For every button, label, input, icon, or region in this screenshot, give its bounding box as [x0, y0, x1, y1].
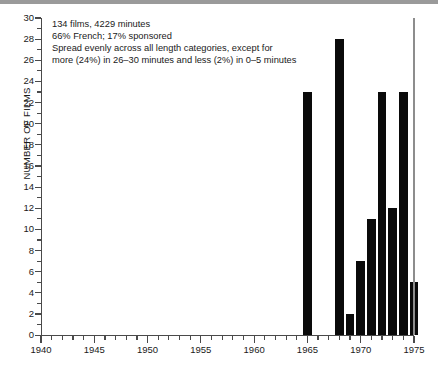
x-tick-minor — [275, 336, 276, 340]
annotation-line: more (24%) in 26–30 minutes and less (2%… — [52, 54, 296, 66]
y-tick-major — [35, 81, 41, 82]
x-tick-major — [360, 336, 361, 343]
annotation-line: 66% French; 17% sponsored — [52, 30, 296, 42]
y-tick-major — [35, 229, 41, 230]
x-tick-minor — [222, 336, 223, 340]
y-tick-major — [35, 144, 41, 145]
y-tick-major — [35, 123, 41, 124]
bar — [399, 92, 408, 335]
y-axis-title: NUMBER OF FILMS — [21, 64, 32, 204]
y-tick-minor — [37, 324, 41, 325]
y-tick-label: 12 — [0, 203, 34, 213]
x-tick-minor — [115, 336, 116, 340]
y-tick-major — [35, 250, 41, 251]
x-tick-minor — [190, 336, 191, 340]
y-tick-minor — [37, 28, 41, 29]
x-tick-minor — [371, 336, 372, 340]
y-tick-major — [35, 271, 41, 272]
annotation-line: 134 films, 4229 minutes — [52, 18, 296, 30]
x-tick-minor — [317, 336, 318, 340]
y-tick-major — [35, 292, 41, 293]
x-tick-minor — [158, 336, 159, 340]
y-tick-minor — [37, 134, 41, 135]
x-tick-label: 1975 — [392, 345, 436, 355]
y-tick-major — [35, 187, 41, 188]
bar — [378, 92, 387, 335]
x-tick-minor — [328, 336, 329, 340]
x-tick-minor — [381, 336, 382, 340]
y-tick-label: 28 — [0, 34, 34, 44]
y-tick-label: 0 — [0, 330, 34, 340]
x-tick-minor — [403, 336, 404, 340]
y-tick-minor — [37, 49, 41, 50]
x-tick-label: 1950 — [126, 345, 170, 355]
y-tick-label: 6 — [0, 267, 34, 277]
x-tick-minor — [349, 336, 350, 340]
x-tick-minor — [83, 336, 84, 340]
x-tick-minor — [51, 336, 52, 340]
x-tick-major — [307, 336, 308, 343]
x-tick-minor — [286, 336, 287, 340]
x-tick-label: 1940 — [19, 345, 63, 355]
x-tick-minor — [243, 336, 244, 340]
x-tick-major — [254, 336, 255, 343]
y-tick-label: 2 — [0, 309, 34, 319]
y-tick-major — [35, 17, 41, 18]
x-tick-label: 1945 — [72, 345, 116, 355]
x-tick-major — [147, 336, 148, 343]
x-tick-minor — [211, 336, 212, 340]
y-tick-label: 10 — [0, 224, 34, 234]
y-axis-line — [41, 18, 42, 335]
y-tick-minor — [37, 91, 41, 92]
bar — [303, 92, 312, 335]
annotation-line: Spread evenly across all length categori… — [52, 42, 296, 54]
y-tick-minor — [37, 303, 41, 304]
x-tick-minor — [264, 336, 265, 340]
y-tick-major — [35, 313, 41, 314]
x-tick-minor — [126, 336, 127, 340]
y-tick-minor — [37, 155, 41, 156]
y-tick-label: 4 — [0, 288, 34, 298]
x-tick-minor — [392, 336, 393, 340]
x-tick-minor — [62, 336, 63, 340]
y-tick-minor — [37, 197, 41, 198]
y-tick-minor — [37, 113, 41, 114]
y-tick-minor — [37, 176, 41, 177]
x-tick-label: 1960 — [232, 345, 276, 355]
y-tick-label: 30 — [0, 13, 34, 23]
x-tick-major — [94, 336, 95, 343]
right-boundary-rule — [413, 18, 414, 335]
bar-chart: 024681012141618202224262830 194019451950… — [0, 0, 438, 368]
bar — [367, 219, 376, 335]
x-tick-minor — [104, 336, 105, 340]
y-tick-minor — [37, 70, 41, 71]
bar — [356, 261, 365, 335]
x-tick-label: 1955 — [179, 345, 223, 355]
x-tick-major — [40, 336, 41, 343]
y-tick-label: 8 — [0, 246, 34, 256]
x-tick-minor — [136, 336, 137, 340]
y-tick-major — [35, 208, 41, 209]
y-tick-minor — [37, 261, 41, 262]
y-tick-major — [35, 102, 41, 103]
bar — [388, 208, 397, 335]
x-tick-minor — [72, 336, 73, 340]
bar — [346, 314, 355, 335]
x-tick-label: 1970 — [339, 345, 383, 355]
chart-annotation: 134 films, 4229 minutes66% French; 17% s… — [52, 18, 296, 66]
y-tick-minor — [37, 239, 41, 240]
x-tick-major — [200, 336, 201, 343]
x-tick-major — [413, 336, 414, 343]
y-tick-minor — [37, 282, 41, 283]
y-tick-major — [35, 165, 41, 166]
x-tick-label: 1965 — [285, 345, 329, 355]
bar — [335, 39, 344, 335]
y-tick-major — [35, 39, 41, 40]
y-tick-major — [35, 60, 41, 61]
x-tick-minor — [168, 336, 169, 340]
x-tick-minor — [296, 336, 297, 340]
x-tick-minor — [179, 336, 180, 340]
x-tick-minor — [232, 336, 233, 340]
y-tick-minor — [37, 218, 41, 219]
x-tick-minor — [339, 336, 340, 340]
